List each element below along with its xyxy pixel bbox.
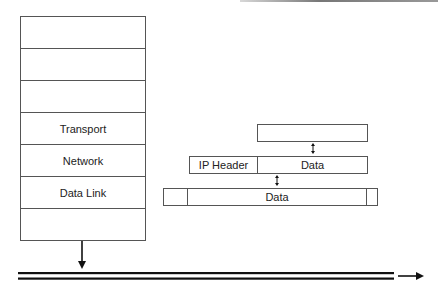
double-arrow-icon (275, 175, 279, 186)
down-arrow-icon (78, 241, 86, 269)
transmission-medium-line (18, 272, 394, 280)
connectors-layer (0, 0, 438, 294)
right-arrow-icon (398, 272, 424, 280)
double-arrow-icon (311, 143, 315, 154)
